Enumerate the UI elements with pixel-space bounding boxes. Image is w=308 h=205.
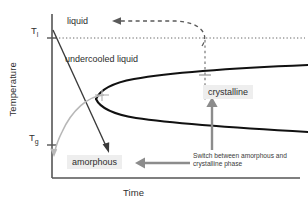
fast-quench-cooling-curve: [53, 30, 106, 146]
region-label-liquid: liquid: [67, 16, 88, 26]
plot-canvas: [0, 0, 308, 205]
ttt-curve-upper-branch: [96, 65, 308, 99]
region-label-undercooled-liquid: undercooled liquid: [65, 54, 138, 64]
tick-label-liquidus-subscript: l: [37, 31, 39, 38]
x-axis-title: Time: [123, 188, 144, 199]
slow-cool-gray-curve: [55, 95, 104, 151]
ttt-diagram-figure: Temperature Time Tl Tg liquid undercoole…: [0, 0, 308, 205]
tick-label-glass-transition-subscript: g: [35, 138, 39, 145]
y-axis-title: Temperature: [8, 52, 19, 126]
liquid-dashed-arrowhead: [112, 17, 121, 25]
ttt-curve-lower-branch: [96, 99, 308, 132]
callout-label-crystalline: crystalline: [203, 85, 253, 99]
liquid-dashed-path: [120, 21, 205, 46]
tick-label-liquidus: Tl: [31, 26, 38, 39]
fast-quench-arrowhead: [103, 142, 110, 153]
callout-label-amorphous: amorphous: [67, 155, 122, 169]
amorphous-callout-arrowhead: [135, 158, 145, 169]
tick-label-glass-transition: Tg: [29, 133, 39, 146]
annotation-switch-note: Switch between amorphous and crystalline…: [193, 152, 303, 168]
